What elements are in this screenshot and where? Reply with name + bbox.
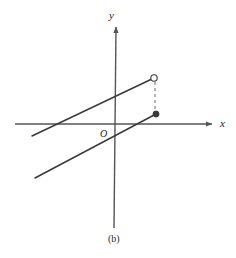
y-axis (114, 27, 116, 228)
x-axis-label: x (220, 118, 225, 129)
open-circle-endpoint-marker (151, 75, 157, 81)
origin-label: O (100, 129, 107, 139)
y-axis-label: y (109, 10, 114, 21)
graph-canvas (0, 0, 236, 258)
upper-line-segment (32, 78, 154, 136)
figure-container: y x O (b) (0, 0, 236, 258)
figure-caption: (b) (108, 234, 120, 244)
filled-dot-endpoint-marker (153, 111, 159, 117)
